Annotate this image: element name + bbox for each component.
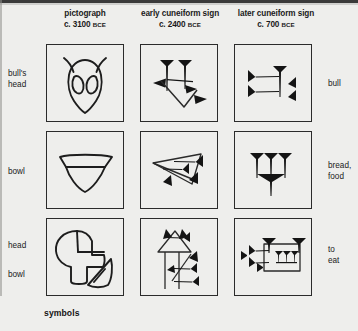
row-label-line: bread, bbox=[328, 160, 351, 171]
column-date: c. 2400 BCE bbox=[131, 20, 229, 31]
column-header-later-cuneiform: later cuneiform sign c. 700 BCE bbox=[228, 9, 324, 30]
cell-pictograph-bull bbox=[46, 44, 124, 122]
early-cuneiform-bowl-icon bbox=[141, 132, 217, 208]
row-label-line: bull bbox=[328, 78, 341, 89]
cell-pictograph-head-bowl bbox=[46, 218, 124, 296]
row-label-left-bowl-2: bowl bbox=[8, 269, 25, 280]
era-label: BCE bbox=[93, 21, 106, 28]
row-label-left-head: head bbox=[8, 240, 26, 251]
cell-early-cuneiform-eat bbox=[140, 218, 218, 296]
early-cuneiform-bull-icon bbox=[141, 45, 217, 121]
row-label-right-bull: bull bbox=[328, 78, 341, 89]
later-cuneiform-eat-icon bbox=[235, 219, 311, 295]
bowl-pictograph-icon bbox=[47, 132, 123, 208]
bulls-head-pictograph-icon bbox=[47, 45, 123, 121]
row-label-left-bull: bull's head bbox=[8, 68, 26, 90]
column-date: c. 3100 BCE bbox=[38, 20, 132, 31]
row-label-line: eat bbox=[328, 255, 339, 266]
scan-edge-band-left bbox=[0, 0, 2, 296]
column-title: early cuneiform sign bbox=[131, 9, 229, 20]
cell-later-cuneiform-bull bbox=[234, 44, 312, 122]
figure-caption: symbols bbox=[44, 308, 80, 318]
column-title: later cuneiform sign bbox=[228, 9, 324, 20]
head-and-bowl-pictograph-icon bbox=[47, 219, 123, 295]
later-cuneiform-bull-icon bbox=[235, 45, 311, 121]
era-label: BCE bbox=[281, 21, 294, 28]
row-label-line: to bbox=[328, 244, 339, 255]
row-label-right-eat: to eat bbox=[328, 244, 339, 266]
cell-early-cuneiform-bull bbox=[140, 44, 218, 122]
row-label-line: head bbox=[8, 79, 26, 90]
row-label-line: head bbox=[8, 240, 26, 251]
cell-pictograph-bowl bbox=[46, 131, 124, 209]
column-title: pictograph bbox=[38, 9, 132, 20]
cell-later-cuneiform-bread bbox=[234, 131, 312, 209]
cell-later-cuneiform-eat bbox=[234, 218, 312, 296]
column-header-early-cuneiform: early cuneiform sign c. 2400 BCE bbox=[131, 9, 229, 30]
row-label-line: bowl bbox=[8, 269, 25, 280]
figure-root: pictograph c. 3100 BCE early cuneiform s… bbox=[0, 0, 358, 331]
scan-edge-band-top-2 bbox=[0, 3, 358, 5]
early-cuneiform-eat-icon bbox=[141, 219, 217, 295]
row-label-line: bowl bbox=[8, 166, 25, 177]
column-date: c. 700 BCE bbox=[228, 20, 324, 31]
row-label-line: bull's bbox=[8, 68, 26, 79]
cell-early-cuneiform-bowl bbox=[140, 131, 218, 209]
later-cuneiform-bread-icon bbox=[235, 132, 311, 208]
row-label-left-bowl: bowl bbox=[8, 166, 25, 177]
row-label-line: food bbox=[328, 171, 351, 182]
row-label-right-bread: bread, food bbox=[328, 160, 351, 182]
column-header-pictograph: pictograph c. 3100 BCE bbox=[38, 9, 132, 30]
era-label: BCE bbox=[188, 21, 201, 28]
